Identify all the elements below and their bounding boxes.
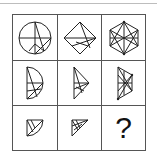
circle-with-lines-icon <box>17 20 53 56</box>
cell-r2-c3 <box>102 61 145 106</box>
half-hexagon-with-lines-icon <box>106 65 142 101</box>
puzzle-grid: ? <box>12 14 146 151</box>
cell-r1-c3 <box>102 15 145 61</box>
cell-r3-c3-answer: ? <box>102 106 145 150</box>
quarter-diamond-with-lines-icon <box>62 110 98 146</box>
question-mark: ? <box>115 113 132 143</box>
cell-r3-c1 <box>13 106 58 150</box>
half-diamond-with-lines-icon <box>62 65 98 101</box>
diamond-with-lines-icon <box>62 20 98 56</box>
hexagon-with-lines-icon <box>106 20 142 56</box>
top-divider <box>0 3 157 4</box>
cell-r3-c2 <box>58 106 102 150</box>
cell-r1-c2 <box>58 15 102 61</box>
cell-r2-c2 <box>58 61 102 106</box>
cell-r2-c1 <box>13 61 58 106</box>
cell-r1-c1 <box>13 15 58 61</box>
quarter-circle-with-lines-icon <box>17 110 53 146</box>
half-circle-with-lines-icon <box>17 65 53 101</box>
